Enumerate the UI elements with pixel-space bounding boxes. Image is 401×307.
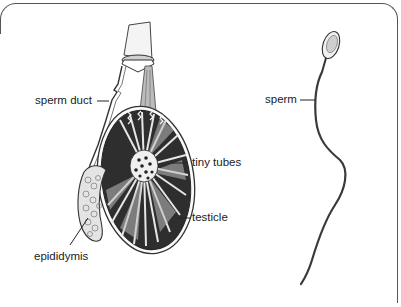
sperm-cell [301, 29, 345, 284]
label-sperm: sperm [265, 93, 297, 106]
label-epididymis: epididymis [34, 250, 88, 263]
spermatic-cord [122, 22, 156, 112]
label-sperm-duct: sperm duct [35, 94, 92, 107]
testicle-body [88, 100, 204, 260]
sperm-tail [301, 72, 345, 284]
label-tiny-tubes: tiny tubes [192, 156, 241, 169]
label-testicle: testicle [192, 211, 228, 224]
